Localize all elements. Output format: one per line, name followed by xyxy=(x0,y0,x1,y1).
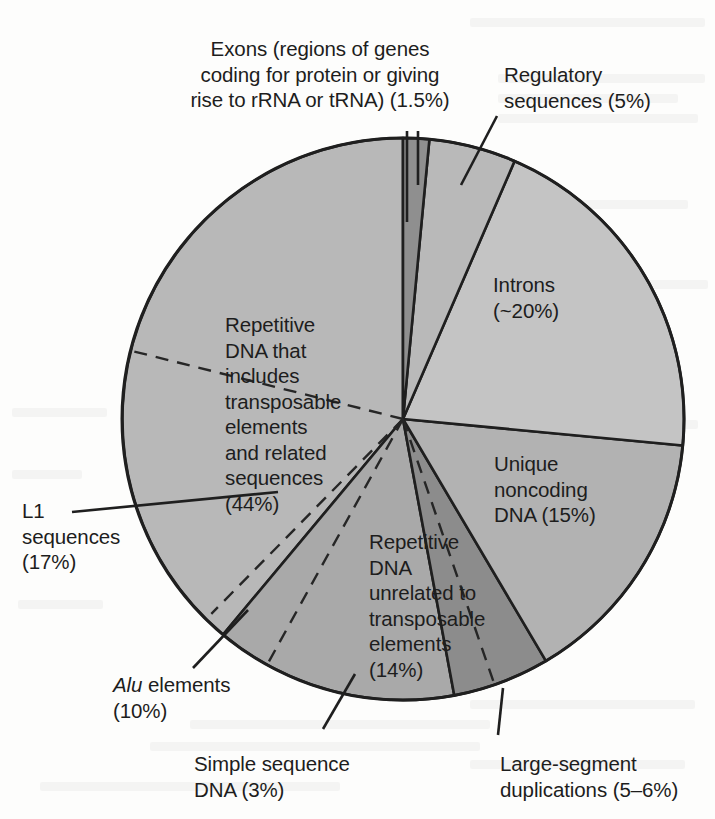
label-rep-transposable-line-1: Repetitive xyxy=(225,313,315,336)
label-introns-line-2: (~20%) xyxy=(493,299,559,322)
label-unique-line-1: Unique xyxy=(494,452,558,475)
label-rep-transposable-line-3: includes xyxy=(225,364,299,387)
label-exons: Exons (regions of genescoding for protei… xyxy=(150,36,490,113)
leader-large-segment xyxy=(498,688,503,735)
label-l1-line-1: L1 xyxy=(22,499,45,522)
label-rep-transposable-line-5: elements xyxy=(225,415,307,438)
label-repetitive-unrelated: RepetitiveDNAunrelated totransposableele… xyxy=(369,529,519,682)
label-alu-elements: Alu elements(10%) xyxy=(113,672,323,723)
label-large-seg-line-1: Large-segment xyxy=(500,752,637,775)
label-exons-line-2: coding for protein or giving xyxy=(201,63,440,86)
label-alu-rest: elements xyxy=(142,673,230,696)
label-alu-line-2: (10%) xyxy=(113,699,167,722)
label-simple-seq-line-1: Simple sequence xyxy=(194,752,350,775)
label-rep-transposable-line-8: (44%) xyxy=(225,492,279,515)
label-alu-italic: Alu xyxy=(113,673,142,696)
label-rep-unrelated-line-1: Repetitive xyxy=(369,530,459,553)
label-large-seg-line-2: duplications (5–6%) xyxy=(500,778,678,801)
label-introns-line-1: Introns xyxy=(493,273,555,296)
label-rep-transposable-line-6: and related xyxy=(225,441,326,464)
label-rep-unrelated-line-4: transposable xyxy=(369,607,485,630)
label-rep-transposable-line-4: transposable xyxy=(225,390,341,413)
label-l1-line-2: sequences xyxy=(22,525,120,548)
label-rep-unrelated-line-6: (14%) xyxy=(369,658,423,681)
figure-page: Exons (regions of genescoding for protei… xyxy=(0,0,715,819)
label-repetitive-transposable: RepetitiveDNA thatincludestransposableel… xyxy=(225,312,410,516)
label-unique-line-3: DNA (15%) xyxy=(494,503,596,526)
label-regulatory-sequences: Regulatorysequences (5%) xyxy=(504,62,714,113)
label-rep-unrelated-line-2: DNA xyxy=(369,556,412,579)
label-introns: Introns(~20%) xyxy=(493,272,643,323)
label-regulatory-line-2: sequences (5%) xyxy=(504,89,651,112)
label-rep-transposable-line-7: sequences xyxy=(225,466,323,489)
label-exons-line-1: Exons (regions of genes xyxy=(211,37,430,60)
label-regulatory-line-1: Regulatory xyxy=(504,63,602,86)
label-rep-unrelated-line-3: unrelated to xyxy=(369,581,476,604)
label-simple-seq-line-2: DNA (3%) xyxy=(194,778,284,801)
label-rep-transposable-line-2: DNA that xyxy=(225,339,306,362)
label-unique-noncoding-dna: UniquenoncodingDNA (15%) xyxy=(494,451,664,528)
label-l1-sequences: L1sequences(17%) xyxy=(22,498,182,575)
label-rep-unrelated-line-5: elements xyxy=(369,632,451,655)
label-unique-line-2: noncoding xyxy=(494,478,588,501)
label-simple-sequence-dna: Simple sequenceDNA (3%) xyxy=(194,751,424,802)
label-large-segment-duplications: Large-segmentduplications (5–6%) xyxy=(500,751,715,802)
label-l1-line-3: (17%) xyxy=(22,550,76,573)
label-exons-line-3: rise to rRNA or tRNA) (1.5%) xyxy=(190,88,449,111)
